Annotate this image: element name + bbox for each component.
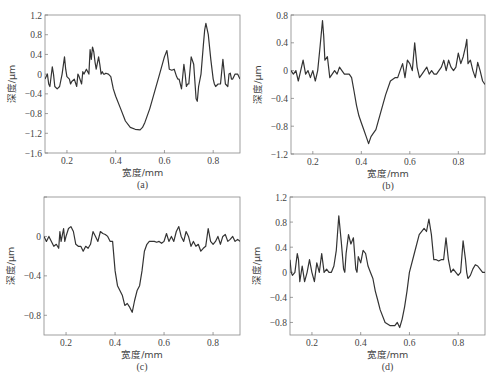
y-tick-label: 0.8 <box>276 11 288 21</box>
subplot-label: (d) <box>382 361 394 373</box>
subplot-a: 0.20.40.60.81.20.80.40−0.4−0.8−1.2−1.6宽度… <box>6 11 240 192</box>
x-tick-label: 0.6 <box>158 338 170 348</box>
depth-profile-line <box>44 227 240 313</box>
x-tick-label: 0.8 <box>207 338 219 348</box>
y-tick-label: 0 <box>283 66 288 76</box>
x-tick-label: 0.8 <box>452 157 464 167</box>
x-axis-label: 宽度/mm <box>122 167 164 178</box>
plot-frame <box>291 15 485 154</box>
x-axis-label: 宽度/mm <box>367 168 409 179</box>
y-axis-label: 深度/μm <box>5 247 16 286</box>
y-axis-label: 深度/μm <box>6 65 17 104</box>
figure: 0.20.40.60.81.20.80.40−0.4−0.8−1.2−1.6宽度… <box>0 0 491 383</box>
x-tick-label: 0.2 <box>60 338 72 348</box>
depth-profile-line <box>290 216 485 328</box>
y-axis-label: 深度/μm <box>252 65 263 104</box>
x-tick-label: 0.4 <box>109 338 121 348</box>
y-tick-label: −0.8 <box>271 122 288 132</box>
y-tick-label: −0.8 <box>270 318 287 328</box>
y-tick-label: −0.8 <box>24 311 41 321</box>
y-tick-label: 0.4 <box>275 243 287 253</box>
y-axis-label: 深度/μm <box>251 247 262 286</box>
y-tick-label: 1.2 <box>30 11 42 21</box>
x-tick-label: 0.4 <box>355 157 367 167</box>
y-tick-label: −0.4 <box>271 94 288 104</box>
y-tick-label: −1.2 <box>25 129 42 139</box>
subplot-label: (b) <box>382 180 394 192</box>
y-tick-label: −0.4 <box>25 89 42 99</box>
x-tick-label: 0.8 <box>207 156 219 166</box>
depth-profile-line <box>45 23 240 129</box>
subplot-label: (c) <box>136 361 147 373</box>
y-tick-label: 0 <box>37 70 42 80</box>
x-tick-label: 0.2 <box>61 156 73 166</box>
y-tick-label: 0.8 <box>30 30 42 40</box>
x-tick-label: 0.6 <box>404 157 416 167</box>
subplot-d: 0.20.40.60.81.20.80.40−0.4−0.8宽度/mm(d)深度… <box>251 193 485 374</box>
plot-frame <box>290 197 485 335</box>
plot-frame <box>45 15 240 153</box>
depth-profile-line <box>291 21 485 144</box>
y-tick-label: 0.4 <box>30 50 42 60</box>
subplot-b: 0.20.40.60.80.80.40−0.4−0.8−1.2宽度/mm(b)深… <box>252 11 485 193</box>
x-tick-label: 0.8 <box>452 338 464 348</box>
y-tick-label: 0 <box>282 268 287 278</box>
y-tick-label: 1.2 <box>275 193 287 203</box>
y-tick-label: 0.8 <box>275 218 287 228</box>
y-tick-label: 0 <box>36 232 41 242</box>
y-tick-label: −0.8 <box>25 109 42 119</box>
y-tick-label: −1.6 <box>25 149 42 159</box>
subplot-label: (a) <box>137 179 148 191</box>
y-tick-label: −1.2 <box>271 150 288 160</box>
x-axis-label: 宽度/mm <box>367 349 409 360</box>
y-tick-label: −0.4 <box>270 293 287 303</box>
x-tick-label: 0.6 <box>404 338 416 348</box>
y-tick-label: 0.4 <box>276 38 288 48</box>
subplot-c: 0.20.40.60.80−0.4−0.8宽度/mm(c)深度/μm <box>5 197 240 373</box>
x-tick-label: 0.2 <box>307 157 319 167</box>
x-tick-label: 0.6 <box>159 156 171 166</box>
y-tick-label: −0.4 <box>24 271 41 281</box>
x-tick-label: 0.2 <box>306 338 318 348</box>
x-tick-label: 0.4 <box>110 156 122 166</box>
x-tick-label: 0.4 <box>355 338 367 348</box>
x-axis-label: 宽度/mm <box>121 349 163 360</box>
